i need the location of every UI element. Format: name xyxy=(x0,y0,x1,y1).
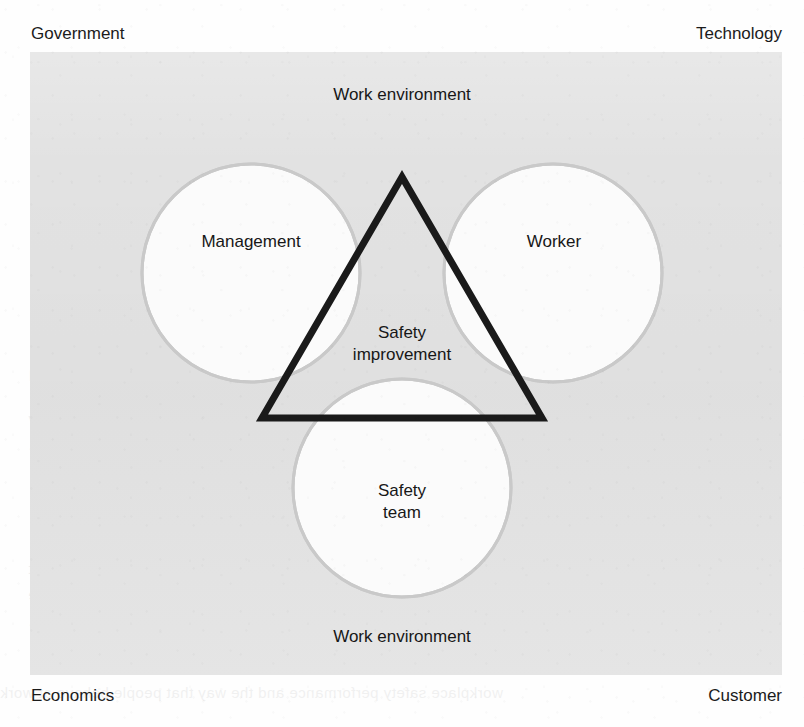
context-label-economics: Economics xyxy=(31,686,114,706)
context-label-technology: Technology xyxy=(696,24,782,44)
scanned-page: Occupational fit theory Making sure that… xyxy=(0,0,804,727)
venn-circles xyxy=(142,164,662,597)
context-label-government: Government xyxy=(31,24,125,44)
context-label-customer: Customer xyxy=(708,686,782,706)
venn-diagram xyxy=(30,52,782,675)
